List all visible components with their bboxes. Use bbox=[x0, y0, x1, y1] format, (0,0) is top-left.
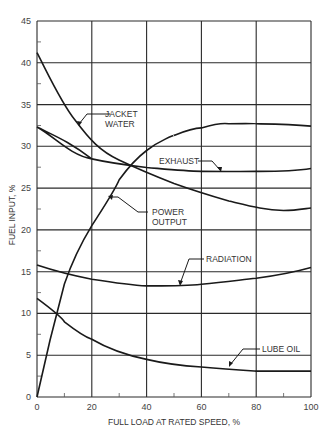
y-tick-label: 20 bbox=[21, 225, 31, 235]
label-power-output: POWER OUTPUT bbox=[108, 195, 187, 227]
y-tick-label: 35 bbox=[21, 100, 31, 110]
y-tick-label: 5 bbox=[26, 350, 31, 360]
x-tick-label: 80 bbox=[251, 402, 261, 412]
y-tick-labels: 45 40 35 30 25 20 15 10 5 0 bbox=[21, 16, 31, 402]
fuel-input-chart: 45 40 35 30 25 20 15 10 5 0 0 20 40 60 8… bbox=[0, 0, 331, 433]
y-tick-label: 25 bbox=[21, 183, 31, 193]
y-tick-label: 30 bbox=[21, 141, 31, 151]
x-tick-label: 0 bbox=[34, 402, 39, 412]
power-output-label-line2: OUTPUT bbox=[152, 217, 187, 227]
y-axis-title: FUEL INPUT, % bbox=[7, 184, 17, 245]
x-tick-label: 60 bbox=[196, 402, 206, 412]
series-lube-oil bbox=[37, 298, 311, 371]
x-tick-label: 100 bbox=[303, 402, 318, 412]
label-radiation: RADIATION bbox=[178, 254, 252, 286]
x-tick-labels: 0 20 40 60 80 100 bbox=[34, 402, 318, 412]
x-tick-label: 20 bbox=[87, 402, 97, 412]
x-tick-label: 40 bbox=[142, 402, 152, 412]
label-jacket-water: JACKET WATER bbox=[77, 109, 138, 129]
y-tick-label: 15 bbox=[21, 267, 31, 277]
series-radiation bbox=[37, 265, 311, 286]
x-axis-title: FULL LOAD AT RATED SPEED, % bbox=[108, 417, 240, 427]
y-tick-label: 0 bbox=[26, 392, 31, 402]
exhaust-label: EXHAUST bbox=[159, 156, 199, 166]
y-tick-label: 40 bbox=[21, 58, 31, 68]
jacket-water-label-line1: JACKET bbox=[105, 109, 138, 119]
leader-arrow-lube-oil bbox=[230, 349, 260, 365]
y-tick-label: 10 bbox=[21, 308, 31, 318]
lube-oil-label: LUBE OIL bbox=[262, 344, 301, 354]
series-jacket-water bbox=[37, 53, 311, 211]
y-tick-label: 45 bbox=[21, 16, 31, 26]
jacket-water-label-line2: WATER bbox=[105, 119, 135, 129]
power-output-label-line1: POWER bbox=[152, 207, 184, 217]
leader-arrow-power-output bbox=[110, 197, 148, 212]
radiation-label: RADIATION bbox=[206, 254, 252, 264]
